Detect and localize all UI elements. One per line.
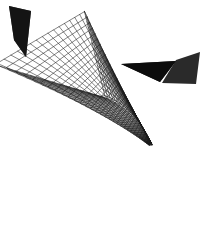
wireframe-figure: 3D wireframe mesh surface Curved triangu… [0, 0, 213, 226]
wireframe-canvas [0, 0, 213, 226]
